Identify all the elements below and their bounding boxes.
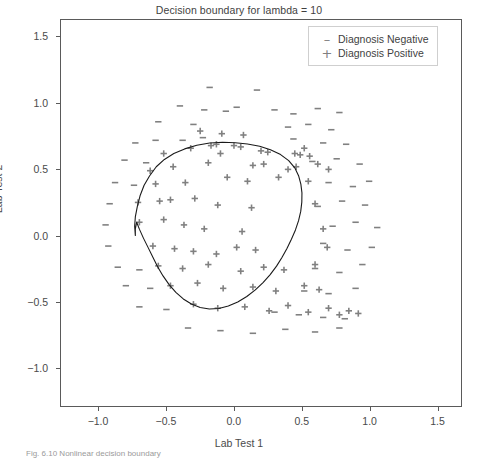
positive-point xyxy=(306,153,312,159)
x-tick-mark xyxy=(98,407,99,411)
legend-label-negative: Diagnosis Negative xyxy=(338,33,428,45)
positive-point xyxy=(285,166,291,172)
positive-point xyxy=(167,197,173,203)
y-tick-label: 1.0 xyxy=(8,97,48,109)
positive-point xyxy=(194,280,200,286)
positive-point xyxy=(215,202,221,208)
positive-point xyxy=(320,226,326,232)
y-tick-label: −1.0 xyxy=(8,362,48,374)
positive-point xyxy=(273,288,279,294)
positive-point xyxy=(224,174,230,180)
positive-point xyxy=(201,226,207,232)
positive-point xyxy=(152,181,158,187)
positive-point xyxy=(205,160,211,166)
y-tick-mark xyxy=(56,169,60,170)
positive-point xyxy=(285,302,291,308)
positive-point xyxy=(181,222,187,228)
y-tick-label: 0.0 xyxy=(8,230,48,242)
x-tick-label: 0.5 xyxy=(294,415,309,427)
positive-point xyxy=(242,304,248,310)
positive-point xyxy=(217,150,223,156)
positive-point xyxy=(150,243,156,249)
x-tick-mark xyxy=(166,407,167,411)
x-tick-mark xyxy=(302,407,303,411)
positive-point xyxy=(248,205,254,211)
plot-svg xyxy=(61,20,461,406)
y-tick-mark xyxy=(56,103,60,104)
positive-point xyxy=(261,161,267,167)
positive-point xyxy=(252,247,258,253)
legend-label-positive: Diagnosis Positive xyxy=(338,47,424,59)
positive-point xyxy=(240,132,246,138)
plot-area xyxy=(60,19,462,407)
positive-point xyxy=(179,265,185,271)
positive-point xyxy=(250,162,256,168)
legend-item-negative: – Diagnosis Negative xyxy=(316,32,428,46)
positive-point xyxy=(190,248,196,254)
positive-point xyxy=(275,174,281,180)
positive-point xyxy=(220,285,226,291)
figure-caption: Fig. 6.10 Nonlinear decision boundary xyxy=(26,449,478,460)
y-tick-mark xyxy=(56,236,60,237)
positive-point xyxy=(301,145,307,151)
x-axis-label: Lab Test 1 xyxy=(0,437,478,449)
x-tick-label: 0.0 xyxy=(227,415,242,427)
minus-marker-icon: – xyxy=(316,33,338,46)
figure-container: Decision boundary for lambda = 10 −1.0−0… xyxy=(0,0,478,462)
positive-point xyxy=(355,310,361,316)
plus-marker-icon: + xyxy=(316,47,338,60)
positive-point xyxy=(292,150,298,156)
chart-title: Decision boundary for lambda = 10 xyxy=(0,4,478,16)
positive-point xyxy=(197,128,203,134)
decision-boundary-curve xyxy=(135,142,302,309)
positive-point xyxy=(324,244,330,250)
x-tick-label: −0.5 xyxy=(156,415,177,427)
positive-point xyxy=(281,267,287,273)
positive-point xyxy=(192,195,198,201)
positive-point xyxy=(161,150,167,156)
positive-point xyxy=(219,131,225,137)
positive-point xyxy=(301,283,307,289)
x-tick-label: 1.0 xyxy=(362,415,377,427)
positive-point xyxy=(244,178,250,184)
y-tick-label: 0.5 xyxy=(8,163,48,175)
positive-point xyxy=(312,261,318,267)
positive-point xyxy=(250,284,256,290)
positive-point xyxy=(233,244,239,250)
positive-point xyxy=(170,164,176,170)
positive-point xyxy=(346,308,352,314)
positive-point xyxy=(325,166,331,172)
x-tick-mark xyxy=(438,407,439,411)
positive-point xyxy=(305,309,311,315)
positive-point xyxy=(305,178,311,184)
positive-point xyxy=(266,308,272,314)
positive-point xyxy=(325,305,331,311)
positive-point xyxy=(171,246,177,252)
positive-point xyxy=(316,286,322,292)
positive-point xyxy=(238,144,244,150)
y-tick-label: 1.5 xyxy=(8,30,48,42)
positive-point xyxy=(261,264,267,270)
positive-point xyxy=(182,179,188,185)
x-tick-mark xyxy=(370,407,371,411)
y-tick-mark xyxy=(56,302,60,303)
negative-markers-layer xyxy=(102,87,380,333)
x-tick-label: −1.0 xyxy=(88,415,109,427)
positive-point xyxy=(239,228,245,234)
legend-box: – Diagnosis Negative + Diagnosis Positiv… xyxy=(308,26,438,66)
y-tick-mark xyxy=(56,36,60,37)
positive-point xyxy=(297,152,303,158)
positive-point xyxy=(205,261,211,267)
x-tick-label: 1.5 xyxy=(430,415,445,427)
positive-point xyxy=(231,142,237,148)
positive-point xyxy=(156,198,162,204)
positive-point xyxy=(161,216,167,222)
y-tick-mark xyxy=(56,368,60,369)
legend-item-positive: + Diagnosis Positive xyxy=(316,46,428,60)
y-axis-label: Lab Test 2 xyxy=(0,165,4,213)
positive-point xyxy=(258,148,264,154)
positive-point xyxy=(238,268,244,274)
positive-point xyxy=(336,312,342,318)
x-tick-mark xyxy=(234,407,235,411)
y-tick-label: −0.5 xyxy=(8,296,48,308)
